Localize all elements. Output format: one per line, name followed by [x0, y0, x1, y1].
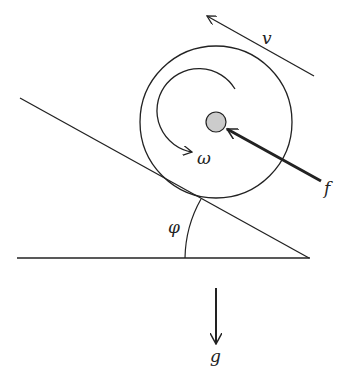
velocity-label: v: [262, 28, 272, 48]
angle-arc: [185, 199, 201, 258]
angle-label: φ: [168, 217, 180, 237]
incline-wheel-diagram: φ ω f v g: [0, 0, 344, 372]
force-arrow: [227, 129, 321, 181]
wheel-hub: [206, 112, 226, 132]
gravity-label: g: [210, 346, 221, 366]
omega-label: ω: [197, 148, 211, 168]
force-label: f: [322, 178, 333, 198]
rotation-arrow: [157, 69, 235, 152]
